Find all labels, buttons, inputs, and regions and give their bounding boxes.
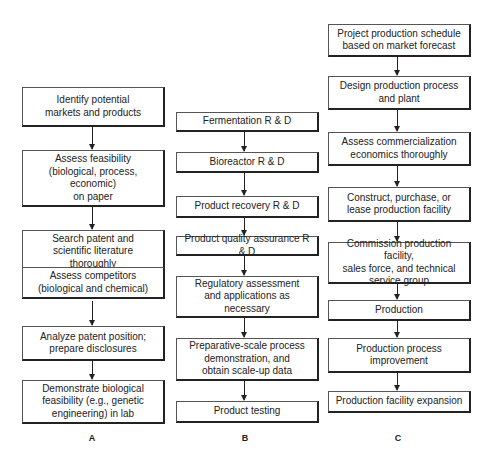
arrow-down-icon (92, 127, 93, 149)
step-quality-assurance: Product quality assurance R & D (176, 236, 319, 256)
step-commission-facility: Commission production facility, sales fo… (328, 242, 471, 284)
arrow-down-icon (397, 373, 398, 390)
arrow-down-icon (244, 256, 245, 275)
column-label-a: A (82, 433, 102, 443)
step-assess-feasibility: Assess feasibility (biological, process,… (22, 150, 165, 207)
arrow-down-icon (397, 110, 398, 131)
step-analyze-patent: Analyze patent position; prepare disclos… (22, 326, 165, 361)
arrow-down-icon (397, 321, 398, 337)
step-design-process: Design production process and plant (328, 76, 471, 110)
step-facility-expansion: Production facility expansion (328, 391, 471, 413)
arrow-down-icon (92, 301, 93, 325)
step-project-schedule: Project production schedule based on mar… (328, 24, 471, 57)
step-regulatory-assessment: Regulatory assessment and applications a… (176, 276, 319, 318)
arrow-down-icon (397, 166, 398, 186)
arrow-down-icon (244, 132, 245, 151)
arrow-down-icon (92, 207, 93, 229)
column-label-c: C (388, 433, 408, 443)
step-demonstrate-feasibility: Demonstrate biological feasibility (e.g.… (22, 380, 165, 424)
step-fermentation: Fermentation R & D (176, 112, 319, 132)
step-bioreactor: Bioreactor R & D (176, 152, 319, 173)
arrow-down-icon (244, 318, 245, 337)
step-product-testing: Product testing (176, 401, 319, 423)
column-label-b: B (235, 433, 255, 443)
arrow-down-icon (244, 381, 245, 400)
arrow-down-icon (244, 173, 245, 195)
step-product-recovery: Product recovery R & D (176, 196, 319, 218)
step-production: Production (328, 300, 471, 321)
step-construct-facility: Construct, purchase, or lease production… (328, 187, 471, 222)
step-assess-economics: Assess commercialization economics thoro… (328, 132, 471, 166)
step-identify-markets: Identify potential markets and products (22, 87, 165, 127)
step-preparative-scale: Preparative-scale process demonstration,… (176, 338, 319, 381)
arrow-down-icon (397, 57, 398, 75)
arrow-down-icon (92, 361, 93, 379)
step-process-improvement: Production process improvement (328, 338, 471, 373)
step-assess-competitors: Assess competitors (biological and chemi… (22, 267, 165, 299)
arrow-down-icon (397, 284, 398, 299)
